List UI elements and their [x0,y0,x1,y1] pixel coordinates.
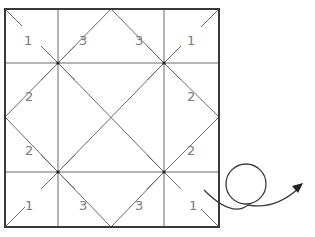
label-bottom-right: 1 [189,198,197,213]
label-bottom-left: 1 [25,198,33,213]
label-right-lower: 2 [187,143,195,158]
label-top-right: 1 [187,33,195,48]
label-right-upper: 2 [187,89,195,104]
label-bottom-inner-right: 3 [135,198,143,213]
label-top-inner-left: 3 [79,33,87,48]
folding-diagram: 1 3 3 1 2 2 2 2 1 3 3 1 [0,0,315,237]
fold-labels: 1 3 3 1 2 2 2 2 1 3 3 1 [24,33,197,213]
label-left-lower: 2 [25,143,33,158]
label-top-left: 1 [24,33,32,48]
label-top-inner-right: 3 [135,33,143,48]
label-left-upper: 2 [25,89,33,104]
label-bottom-inner-left: 3 [79,198,87,213]
